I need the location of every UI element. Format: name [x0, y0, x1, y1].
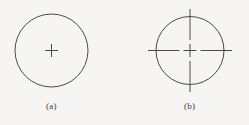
figure-container: (a) (b) — [0, 0, 249, 125]
panel-caption-b: (b) — [184, 101, 195, 112]
panel-caption-a: (a) — [46, 101, 57, 112]
panel-b-drawing — [0, 0, 249, 98]
